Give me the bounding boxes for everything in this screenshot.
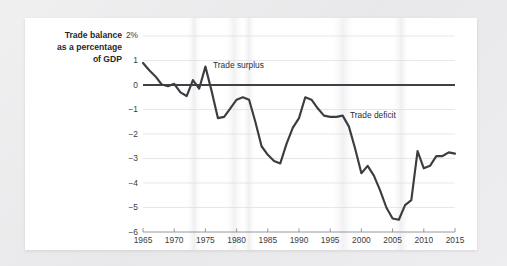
y-tick-label-minus-5: −5: [112, 203, 138, 212]
y-axis-title: Trade balance as a percentage of GDP: [30, 30, 122, 65]
y-tick-label-2: 2%: [112, 31, 138, 40]
y-tick-label-0: 0: [112, 81, 138, 90]
y-tick-label-minus-1: −1: [112, 105, 138, 114]
y-axis-title-line-3: of GDP: [30, 54, 122, 66]
annotation-trade-surplus: Trade surplus: [213, 60, 264, 70]
annotation-trade-deficit: Trade deficit: [350, 110, 396, 120]
y-tick-label-minus-3: −3: [112, 154, 138, 163]
y-axis-title-line-2: as a percentage: [30, 42, 122, 54]
screenshot-page: Trade balance as a percentage of GDP 2% …: [0, 0, 507, 266]
x-tick-label-2015: 2015: [435, 236, 475, 245]
y-tick-label-minus-2: −2: [112, 130, 138, 139]
y-tick-label-1: 1: [112, 56, 138, 65]
y-axis-title-line-1: Trade balance: [30, 30, 122, 42]
y-tick-label-minus-4: −4: [112, 179, 138, 188]
